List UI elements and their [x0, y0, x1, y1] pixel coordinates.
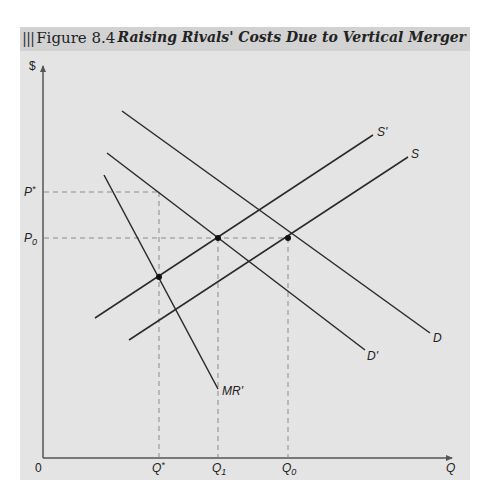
point-q1-p0-intersection: [215, 235, 221, 241]
x-tick-q0: Q0: [282, 461, 296, 477]
supply-curve-s-prime: [95, 135, 373, 318]
chart-canvas: $ 0 Q P* P0 Q* Q1 Q0 S' S D D' MR': [0, 0, 486, 497]
point-q0-p0-intersection: [285, 235, 291, 241]
reference-lines: [44, 192, 288, 457]
x-tick-q1: Q1: [212, 461, 226, 477]
origin-label: 0: [35, 461, 42, 475]
supply-curve-s: [129, 157, 408, 340]
label-s-prime: S': [377, 125, 388, 139]
y-tick-p0: P0: [24, 231, 37, 247]
label-d: D: [433, 331, 442, 345]
y-tick-p-star: P*: [24, 184, 36, 199]
label-d-prime: D': [367, 349, 379, 363]
x-tick-q-star: Q*: [152, 460, 165, 475]
demand-curve-d-prime: [107, 153, 365, 350]
demand-curve-d: [122, 111, 430, 333]
label-mr-prime: MR': [222, 384, 244, 398]
marginal-revenue-curve-mr-prime: [104, 175, 218, 389]
point-q-star-intersection: [156, 274, 162, 280]
label-s: S: [411, 147, 419, 161]
y-axis-label: $: [29, 59, 36, 73]
x-axis-label: Q: [446, 461, 455, 475]
